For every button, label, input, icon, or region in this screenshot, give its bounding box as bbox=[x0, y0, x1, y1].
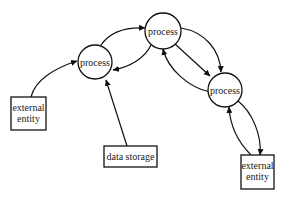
external-entity-2-line1: external bbox=[241, 160, 273, 171]
process-node-2[interactable]: process bbox=[145, 13, 181, 49]
flow-ds-to-p1 bbox=[106, 80, 127, 146]
process-1-label: process bbox=[80, 57, 110, 68]
external-entity-2-line2: entity bbox=[246, 171, 269, 182]
data-storage-label: data storage bbox=[106, 151, 155, 162]
flow-p1-to-p2 bbox=[101, 28, 145, 45]
process-node-1[interactable]: process bbox=[78, 45, 112, 79]
process-3-label: process bbox=[210, 85, 240, 96]
external-entity-1-line2: entity bbox=[17, 113, 40, 124]
flow-e2-to-p3 bbox=[229, 107, 251, 155]
flow-p3-to-e2 bbox=[238, 101, 260, 155]
flow-p2-to-p3-straight bbox=[175, 44, 210, 76]
flow-p3-to-p2 bbox=[163, 49, 210, 92]
process-node-3[interactable]: process bbox=[208, 73, 242, 107]
data-flow-diagram: process process process external entity … bbox=[0, 0, 288, 200]
external-entity-1-line1: external bbox=[12, 102, 44, 113]
flow-e1-to-p1 bbox=[31, 61, 77, 97]
external-entity-1[interactable]: external entity bbox=[11, 97, 46, 130]
data-storage-node[interactable]: data storage bbox=[104, 146, 157, 167]
external-entity-2[interactable]: external entity bbox=[241, 155, 274, 189]
process-2-label: process bbox=[148, 26, 178, 37]
flow-p2-to-p1 bbox=[113, 45, 151, 70]
flow-p2-to-p3-arc bbox=[181, 28, 221, 72]
